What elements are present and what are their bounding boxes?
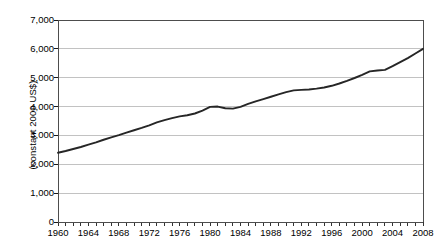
x-tick-label: 2008 — [406, 228, 435, 238]
x-tick-label: 1964 — [71, 228, 105, 238]
plot-area — [0, 0, 435, 250]
x-axis-ticks — [58, 222, 423, 226]
plot-frame — [58, 20, 423, 222]
x-axis-tick-labels: 1960196419681972197619801984198819921996… — [0, 228, 435, 244]
x-tick-label: 1960 — [41, 228, 75, 238]
x-tick-label: 1988 — [254, 228, 288, 238]
x-tick-label: 1996 — [315, 228, 349, 238]
x-tick-label: 1992 — [284, 228, 318, 238]
x-tick-label: 1968 — [102, 228, 136, 238]
x-tick-label: 1980 — [193, 228, 227, 238]
x-tick-label: 1972 — [132, 228, 166, 238]
x-tick-label: 2000 — [345, 228, 379, 238]
y-axis-ticks — [54, 20, 58, 222]
x-tick-label: 1976 — [163, 228, 197, 238]
x-tick-label: 2004 — [376, 228, 410, 238]
data-line-series-0 — [58, 49, 423, 153]
x-tick-label: 1984 — [224, 228, 258, 238]
chart-container: (constant 2000 US$) 01,0002,0003,0004,00… — [0, 0, 435, 250]
